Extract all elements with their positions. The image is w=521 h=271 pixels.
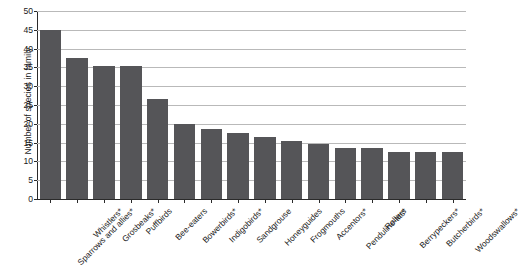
bar [66, 58, 87, 199]
x-axis-tick-mark [265, 199, 266, 203]
y-axis-tick-label: 5 [2, 175, 33, 185]
y-axis-tick-mark [34, 11, 37, 12]
bar [201, 129, 222, 199]
bar [254, 137, 275, 199]
x-axis-line [37, 199, 466, 200]
y-axis-tick-mark [34, 30, 37, 31]
y-axis-tick-label: 20 [2, 119, 33, 129]
bar [93, 66, 114, 199]
y-axis-tick-label: 50 [2, 6, 33, 16]
x-axis-tick-mark [426, 199, 427, 203]
bar [227, 133, 248, 199]
x-axis-tick-mark [211, 199, 212, 203]
y-axis-tick-mark [34, 143, 37, 144]
y-axis-tick-mark [34, 86, 37, 87]
bar [361, 148, 382, 199]
y-axis-tick-mark [34, 124, 37, 125]
x-axis-tick-mark [345, 199, 346, 203]
x-axis-tick-mark [158, 199, 159, 203]
y-axis-tick-mark [34, 67, 37, 68]
bar [120, 66, 141, 199]
x-axis-tick-label: Rollers [383, 206, 409, 232]
gridline [37, 30, 466, 31]
x-axis-tick-mark [372, 199, 373, 203]
x-axis-tick-mark [292, 199, 293, 203]
y-axis-tick-label: 35 [2, 62, 33, 72]
x-axis-tick-mark [453, 199, 454, 203]
y-axis-tick-label: 40 [2, 44, 33, 54]
bar [281, 141, 302, 199]
y-axis-tick-mark [34, 180, 37, 181]
bar [174, 124, 195, 199]
y-axis-tick-mark [34, 161, 37, 162]
y-axis-tick-mark [34, 105, 37, 106]
plot-area [37, 11, 466, 199]
y-axis-tick-label: 15 [2, 138, 33, 148]
y-axis-tick-label: 30 [2, 81, 33, 91]
x-axis-tick-mark [77, 199, 78, 203]
x-axis-tick-mark [104, 199, 105, 203]
y-axis-tick-label: 25 [2, 100, 33, 110]
bar [335, 148, 356, 199]
x-axis-tick-mark [319, 199, 320, 203]
y-axis-tick-label: 45 [2, 25, 33, 35]
x-axis-tick-mark [50, 199, 51, 203]
x-axis-tick-mark [399, 199, 400, 203]
y-axis-tick-label: 0 [2, 194, 33, 204]
bar [388, 152, 409, 199]
y-axis-tick-label: 10 [2, 156, 33, 166]
gridline [37, 11, 466, 12]
x-axis-tick-mark [184, 199, 185, 203]
x-axis-tick-mark [131, 199, 132, 203]
y-axis-tick-mark [34, 199, 37, 200]
bar [147, 99, 168, 199]
y-axis-tick-mark [34, 49, 37, 50]
bar [442, 152, 463, 199]
gridline [37, 49, 466, 50]
bar [415, 152, 436, 199]
bar [308, 144, 329, 199]
bar [40, 30, 61, 199]
x-axis-tick-mark [238, 199, 239, 203]
